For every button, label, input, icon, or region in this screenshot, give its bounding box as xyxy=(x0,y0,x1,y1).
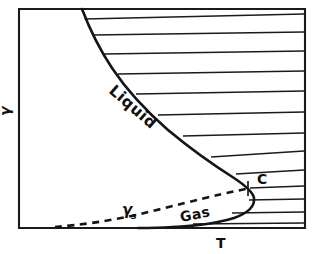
coexistence-curve xyxy=(82,9,254,228)
hatch-line xyxy=(93,32,304,35)
phase-diagram-figure: Liquid Gas C γ s T γ xyxy=(0,0,316,254)
frame-border xyxy=(19,9,305,228)
two-phase-hatching xyxy=(85,14,305,224)
phase-diagram-svg: Liquid Gas C γ s T γ xyxy=(0,0,316,254)
plot-frame xyxy=(19,9,305,228)
hatch-line xyxy=(118,71,304,74)
hatch-line xyxy=(211,151,304,157)
label-critical-point: C xyxy=(257,171,267,187)
hatch-line xyxy=(183,133,304,136)
hatch-line xyxy=(249,199,304,200)
coexistence-curve-group xyxy=(82,9,254,228)
hatch-line xyxy=(136,91,304,94)
hatch-line xyxy=(236,170,304,174)
label-y-axis: γ xyxy=(0,105,13,116)
hatch-line xyxy=(104,51,304,54)
label-gas: Gas xyxy=(179,203,212,225)
label-x-axis: T xyxy=(216,235,226,251)
label-spinodal-subscript: s xyxy=(131,210,137,221)
hatch-line xyxy=(158,112,304,115)
hatch-line xyxy=(85,14,305,19)
label-liquid: Liquid xyxy=(105,81,160,132)
